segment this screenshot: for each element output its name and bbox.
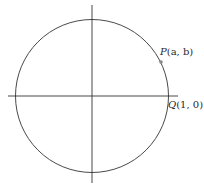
unit-circle-diagram: P(a, b) Q(1, 0) — [0, 0, 204, 187]
point-p-marker — [159, 60, 163, 64]
point-p-label: P(a, b) — [159, 46, 193, 57]
point-q-label: Q(1, 0) — [168, 99, 203, 110]
